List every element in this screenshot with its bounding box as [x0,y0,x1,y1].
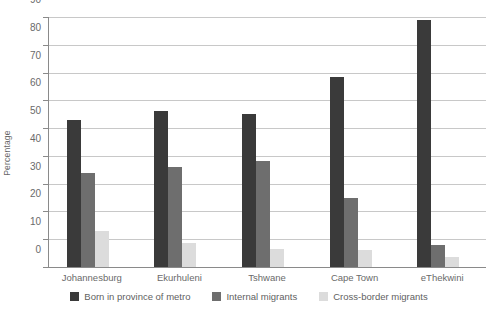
bar-group [154,17,196,267]
bar-group [242,17,284,267]
bar [344,198,358,267]
bar-group [67,17,109,267]
y-axis-line [48,17,49,268]
y-axis-tick-labels: 0102030405060708090 [0,0,41,251]
legend-item[interactable]: Internal migrants [212,291,297,302]
legend-swatch-icon [70,292,79,301]
bar [67,120,81,267]
y-tick-label: 30 [5,162,41,172]
y-tick-label: 60 [5,78,41,88]
bar [168,167,182,267]
bar [330,77,344,267]
y-tick-label: 40 [5,134,41,144]
bar [154,111,168,267]
y-tick-mark [43,267,48,268]
legend-label: Born in province of metro [84,291,190,302]
legend-item[interactable]: Born in province of metro [70,291,190,302]
bar [358,250,372,267]
y-tick-mark [43,73,48,74]
plot-area [48,17,486,267]
y-tick-mark [43,17,48,18]
bar [417,20,431,267]
y-tick-label: 90 [5,0,41,5]
bar-group [330,17,372,267]
y-tick-mark [43,184,48,185]
y-tick-label: 0 [5,245,41,255]
y-tick-mark [43,211,48,212]
y-tick-mark [43,128,48,129]
bar-chart: Percentage 0102030405060708090 Johannesb… [0,0,498,315]
bar-group [417,17,459,267]
x-tick-label: Ekurhuleni [136,272,224,283]
bar [182,243,196,267]
bar [95,231,109,267]
bar [431,245,445,267]
bar [242,114,256,267]
legend-swatch-icon [212,292,221,301]
y-tick-mark [43,156,48,157]
y-tick-mark [43,239,48,240]
y-tick-label: 10 [5,217,41,227]
x-axis-line [48,267,486,268]
legend-label: Internal migrants [226,291,297,302]
y-tick-label: 50 [5,106,41,116]
x-tick-label: Cape Town [311,272,399,283]
bar [256,161,270,267]
bar [445,257,459,267]
y-tick-label: 70 [5,51,41,61]
legend-swatch-icon [319,292,328,301]
x-tick-label: Tshwane [223,272,311,283]
legend-item[interactable]: Cross-border migrants [319,291,428,302]
y-tick-mark [43,100,48,101]
bar [270,249,284,267]
y-tick-label: 80 [5,23,41,33]
x-tick-label: Johannesburg [48,272,136,283]
legend-label: Cross-border migrants [333,291,428,302]
y-tick-mark [43,45,48,46]
bar [81,173,95,267]
y-tick-label: 20 [5,189,41,199]
chart-legend: Born in province of metroInternal migran… [0,291,498,302]
x-tick-label: eThekwini [398,272,486,283]
